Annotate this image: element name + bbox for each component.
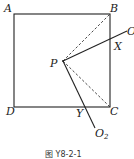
geometry-figure: A B D C P X Y O1 O2 图 Y8-2-1 [0,0,134,159]
label-o1: O1 [127,25,134,39]
label-c: C [110,105,119,118]
segment-pb-dashed [63,14,110,61]
label-b: B [109,2,118,15]
label-p: P [49,57,58,70]
label-a: A [3,2,12,15]
label-d: D [5,105,15,118]
figure-caption: 图 Y8-2-1 [45,150,81,159]
label-x: X [113,40,123,53]
label-y: Y [76,107,85,120]
segment-pc-dashed [63,61,110,107]
point-p [62,60,64,62]
label-o2: O2 [95,127,109,141]
